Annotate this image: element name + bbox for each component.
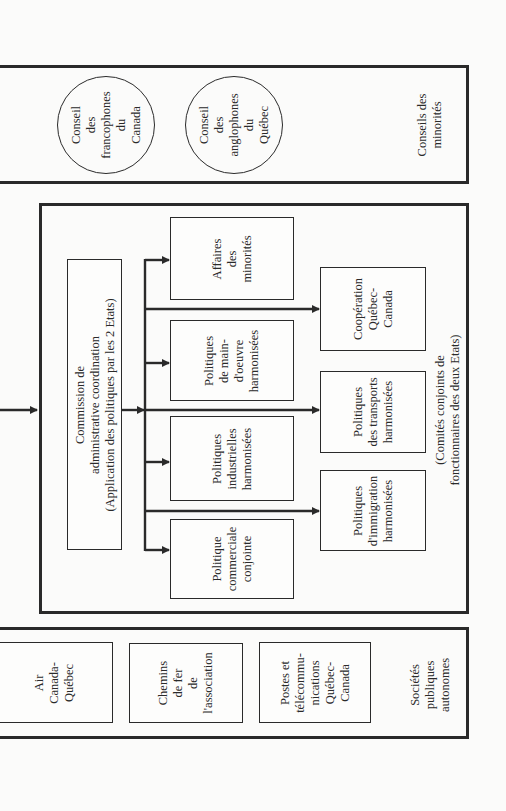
company-label: Air Canada- Québec [32, 662, 77, 704]
company-postal-telecom: Postes et télécommu- nications Québec- C… [259, 642, 371, 723]
company-railways: Chemins de fer de l'association [129, 643, 243, 723]
public-companies-title: Sociétés publiques autonomes [408, 658, 453, 712]
public-companies-title-wrap: Sociétés publiques autonomes [400, 645, 460, 725]
company-air-canada-quebec: Air Canada- Québec [0, 642, 113, 723]
company-label: Chemins de fer de l'association [156, 652, 216, 713]
company-label: Postes et télécommu- nications Québec- C… [278, 653, 353, 713]
